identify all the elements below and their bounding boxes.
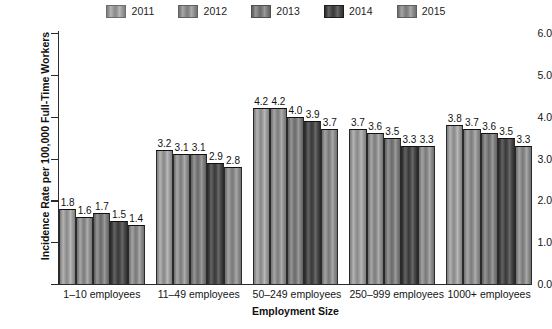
bar-value-label: 1.5 [112, 210, 126, 220]
bar-groups: 1.81.61.71.51.43.23.13.12.92.84.24.24.03… [59, 33, 532, 284]
bar-slot: 1.8 [59, 33, 76, 284]
bar-2011[interactable]: 3.2 [156, 150, 173, 284]
bar-value-label: 2.9 [209, 152, 223, 162]
bar-value-label: 3.8 [448, 114, 462, 124]
bar-slot: 3.9 [304, 33, 321, 284]
bar-2012[interactable]: 1.6 [76, 217, 93, 284]
bar-slot: 2.9 [207, 33, 224, 284]
legend-item-2011[interactable]: 2011 [106, 5, 154, 18]
bar-2014[interactable]: 1.5 [110, 221, 127, 284]
bar-slot: 4.2 [270, 33, 287, 284]
bar-value-label: 1.4 [129, 214, 143, 224]
bar-value-label: 3.3 [402, 135, 416, 145]
bar-value-label: 3.5 [385, 127, 399, 137]
legend-swatch-2015 [397, 5, 417, 18]
bar-slot: 3.7 [463, 33, 480, 284]
legend-swatch-2014 [324, 5, 344, 18]
bar-slot: 1.7 [93, 33, 110, 284]
bar-slot: 3.8 [446, 33, 463, 284]
bar-slot: 3.6 [367, 33, 384, 284]
legend-item-2013[interactable]: 2013 [251, 5, 300, 18]
bar-2012[interactable]: 3.7 [463, 129, 480, 284]
bar-slot: 1.6 [76, 33, 93, 284]
bar-value-label: 4.2 [271, 97, 285, 107]
x-axis-labels: 1–10 employees11–49 employees50–249 empl… [59, 288, 532, 300]
bar-2014[interactable]: 3.9 [304, 121, 321, 284]
bar-slot: 3.1 [173, 33, 190, 284]
bar-2013[interactable]: 3.6 [481, 133, 498, 284]
bar-2013[interactable]: 3.5 [384, 138, 401, 284]
bar-group: 3.73.63.53.33.3 [349, 33, 435, 284]
chart-legend: 20112012201320142015 [0, 5, 552, 18]
bar-slot: 3.2 [156, 33, 173, 284]
bar-value-label: 3.2 [157, 139, 171, 149]
bar-slot: 3.5 [498, 33, 515, 284]
bar-2013[interactable]: 4.0 [287, 117, 304, 284]
bar-group: 4.24.24.03.93.7 [253, 33, 339, 284]
x-axis-label: 250–999 employees [349, 288, 435, 300]
legend-label-2015: 2015 [422, 6, 446, 17]
bar-2011[interactable]: 3.8 [446, 125, 463, 284]
bar-chart: 20112012201320142015 Incidence Rate per … [0, 0, 552, 329]
bar-2013[interactable]: 3.1 [190, 154, 207, 284]
bar-slot: 1.5 [110, 33, 127, 284]
bar-value-label: 3.5 [499, 127, 513, 137]
bar-value-label: 3.7 [351, 118, 365, 128]
bar-value-label: 3.3 [420, 135, 434, 145]
legend-item-2012[interactable]: 2012 [178, 5, 227, 18]
legend-swatch-2012 [178, 5, 198, 18]
y-axis-title: Incidence Rate per 100,000 Full-Time Wor… [39, 1, 51, 291]
legend-swatch-2013 [251, 5, 271, 18]
bar-value-label: 3.1 [192, 143, 206, 153]
bar-value-label: 4.2 [254, 97, 268, 107]
bar-slot: 4.2 [253, 33, 270, 284]
legend-item-2015[interactable]: 2015 [397, 5, 446, 18]
bar-value-label: 4.0 [289, 106, 303, 116]
bar-slot: 3.3 [418, 33, 435, 284]
bar-slot: 3.7 [349, 33, 366, 284]
bar-2012[interactable]: 3.1 [173, 154, 190, 284]
bar-2012[interactable]: 3.6 [367, 133, 384, 284]
bar-slot: 3.3 [401, 33, 418, 284]
legend-label-2013: 2013 [276, 6, 300, 17]
x-axis-title: Employment Size [59, 305, 532, 317]
bar-2015[interactable]: 3.7 [321, 129, 338, 284]
x-axis-line [58, 284, 532, 285]
bar-2014[interactable]: 3.5 [498, 138, 515, 284]
legend-label-2011: 2011 [131, 6, 154, 17]
bar-value-label: 3.7 [323, 118, 337, 128]
bar-2014[interactable]: 2.9 [207, 163, 224, 284]
bar-value-label: 1.8 [61, 198, 75, 208]
bar-value-label: 1.6 [78, 206, 92, 216]
legend-label-2014: 2014 [349, 6, 373, 17]
bar-group: 3.23.13.12.92.8 [156, 33, 242, 284]
bar-value-label: 3.6 [368, 122, 382, 132]
bar-value-label: 3.7 [465, 118, 479, 128]
x-axis-label: 11–49 employees [156, 288, 242, 300]
bar-2012[interactable]: 4.2 [270, 108, 287, 284]
legend-label-2012: 2012 [203, 6, 227, 17]
bar-slot: 3.1 [190, 33, 207, 284]
bar-2014[interactable]: 3.3 [401, 146, 418, 284]
bar-2013[interactable]: 1.7 [93, 213, 110, 284]
bar-2011[interactable]: 1.8 [59, 209, 76, 284]
bar-2011[interactable]: 4.2 [253, 108, 270, 284]
bar-slot: 3.5 [384, 33, 401, 284]
bar-value-label: 2.8 [226, 156, 240, 166]
bar-group: 3.83.73.63.53.3 [446, 33, 532, 284]
legend-swatch-2011 [106, 5, 126, 18]
legend-item-2014[interactable]: 2014 [324, 5, 373, 18]
bar-slot: 3.7 [321, 33, 338, 284]
bar-2015[interactable]: 2.8 [224, 167, 241, 284]
bar-value-label: 3.9 [306, 110, 320, 120]
bar-value-label: 3.3 [516, 135, 530, 145]
bar-2011[interactable]: 3.7 [349, 129, 366, 284]
bar-2015[interactable]: 1.4 [128, 225, 145, 284]
bar-value-label: 3.6 [482, 122, 496, 132]
x-axis-label: 50–249 employees [253, 288, 339, 300]
bar-2015[interactable]: 3.3 [515, 146, 532, 284]
bar-2015[interactable]: 3.3 [418, 146, 435, 284]
bar-slot: 2.8 [224, 33, 241, 284]
x-axis-label: 1–10 employees [59, 288, 145, 300]
bar-value-label: 1.7 [95, 202, 109, 212]
